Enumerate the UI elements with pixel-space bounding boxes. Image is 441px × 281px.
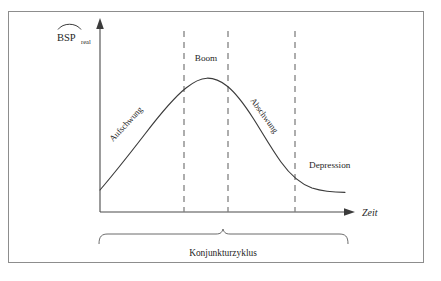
x-axis-arrow-icon bbox=[344, 208, 355, 216]
x-axis-label: Zeit bbox=[362, 207, 378, 218]
figure-root: BSP real Zeit Aufschwung Boom Abschwung … bbox=[0, 0, 441, 281]
phase-label-aufschwung: Aufschwung bbox=[107, 104, 145, 143]
cycle-brace-label: Konjunkturzyklus bbox=[189, 248, 257, 258]
phase-label-depression: Depression bbox=[309, 160, 351, 170]
bsp-real-curve bbox=[100, 78, 345, 192]
y-axis-label-main: BSP bbox=[57, 32, 76, 43]
phase-label-abschwung: Abschwung bbox=[248, 96, 281, 136]
business-cycle-chart: BSP real Zeit Aufschwung Boom Abschwung … bbox=[0, 0, 441, 281]
hat-accent-icon bbox=[58, 24, 81, 29]
y-axis-label-subscript: real bbox=[81, 38, 91, 45]
cycle-brace-icon bbox=[99, 229, 348, 244]
y-axis-arrow-icon bbox=[96, 18, 104, 29]
cycle-brace-group: Konjunkturzyklus bbox=[99, 229, 348, 258]
phase-label-boom: Boom bbox=[195, 53, 217, 63]
y-axis-label-group: BSP real bbox=[57, 24, 91, 44]
